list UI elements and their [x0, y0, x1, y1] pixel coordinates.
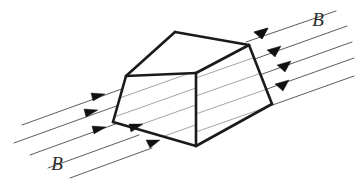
arrow-head-left-1 [91, 93, 105, 101]
figure-root: B B [0, 0, 364, 184]
field-label-left: B [51, 153, 63, 174]
field-line-left-2 [14, 104, 122, 143]
arrow-head-right-2 [267, 46, 281, 57]
magnetic-field-diagram: B B [0, 0, 364, 184]
arrow-head-left-3 [92, 126, 106, 134]
field-label-right: B [312, 9, 324, 30]
field-line-left-5 [70, 148, 152, 178]
field-line-right-4 [256, 58, 354, 93]
arrow-head-right-3 [277, 61, 291, 72]
field-line-right-3 [254, 42, 352, 77]
arrow-head-face-2 [146, 140, 160, 148]
field-line-left-3 [30, 122, 121, 155]
arrow-head-right-exit [254, 28, 268, 39]
field-line-right-5 [267, 76, 354, 107]
arrow-head-right-4 [275, 80, 289, 91]
